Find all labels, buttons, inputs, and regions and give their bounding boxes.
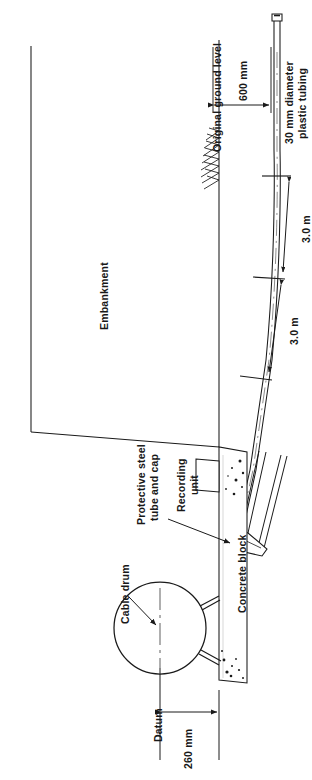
label-datum: Datum [152, 708, 164, 742]
label-original-ground-level: Original ground level [211, 43, 223, 152]
label-spacing-upper-3m: 3.0 m [300, 215, 312, 243]
label-protective-steel-tube-line1: Protective steel [135, 444, 147, 525]
label-recording-unit-line1: Recording [175, 458, 187, 512]
diagram-linework [0, 0, 312, 780]
dimension-3m-upper [283, 182, 289, 272]
label-dimension-600mm: 600 mm [237, 61, 249, 101]
label-concrete-block: Concrete block [236, 534, 248, 613]
label-plastic-tubing-line1: 30 mm diameter [283, 61, 295, 144]
gauge-tick-marks [240, 176, 291, 380]
embankment-outline [31, 46, 219, 447]
label-embankment: Embankment [98, 262, 110, 330]
label-protective-steel-tube-line2: tube and cap [148, 454, 160, 521]
label-spacing-lower-3m: 3.0 m [288, 317, 300, 345]
label-dimension-260mm: 260 mm [182, 729, 194, 769]
label-cable-drum: Cable drum [119, 564, 131, 624]
diagram-canvas: Embankment Original ground level 600 mm … [0, 0, 312, 780]
label-recording-unit-line2: unit [188, 475, 200, 495]
label-plastic-tubing-line2: plastic tubing [296, 68, 308, 139]
